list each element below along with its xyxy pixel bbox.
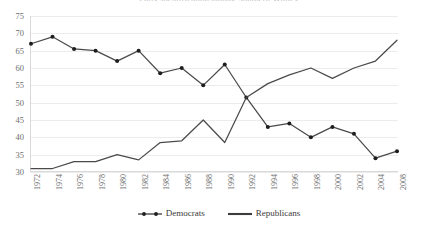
y-axis-tick-labels: 75706560555045403530 [0, 16, 28, 172]
series-layer [30, 16, 398, 172]
y-axis-tick-label: 75 [16, 11, 25, 21]
x-axis-tick-label: 2002 [357, 174, 365, 190]
data-point-democrats [373, 156, 377, 160]
series-line-democrats [31, 37, 397, 158]
data-point-democrats [266, 125, 270, 129]
x-axis-tick-label: 1984 [163, 174, 171, 190]
y-axis-tick-label: 70 [16, 28, 25, 38]
x-axis-tick-label: 1980 [120, 174, 128, 190]
chart-title: Party Identification among Southern Whit… [0, 0, 437, 1]
x-axis-tick-label: 1976 [77, 174, 85, 190]
y-axis-tick-label: 65 [16, 46, 25, 56]
y-axis-tick-label: 50 [16, 98, 25, 108]
x-axis-tick-label: 2004 [378, 174, 386, 190]
x-axis-tick-label: 2008 [400, 174, 408, 190]
gridline [30, 172, 398, 173]
x-axis-tick-label: 1972 [34, 174, 42, 190]
y-axis-tick-label: 40 [16, 132, 25, 142]
legend-label-republicans: Republicans [256, 209, 301, 218]
legend-swatch-republicans [227, 210, 253, 218]
x-axis-tick-labels: 1972197419761978198019821984198619881990… [30, 174, 398, 204]
y-axis-tick-label: 60 [16, 63, 25, 73]
legend-swatch-democrats [137, 210, 163, 218]
data-point-democrats [72, 47, 76, 51]
legend-item-republicans[interactable]: Republicans [227, 209, 301, 218]
data-point-democrats [29, 42, 33, 46]
x-axis-tick-label: 1990 [228, 174, 236, 190]
x-axis-tick-label: 1978 [99, 174, 107, 190]
y-axis-tick-label: 35 [16, 150, 25, 160]
y-axis-tick-label: 30 [16, 167, 25, 177]
data-point-democrats [330, 125, 334, 129]
data-point-democrats [352, 132, 356, 136]
x-axis-tick-label: 1986 [185, 174, 193, 190]
data-point-democrats [158, 71, 162, 75]
x-axis-tick-label: 1988 [206, 174, 214, 190]
x-axis-tick-label: 1996 [292, 174, 300, 190]
x-axis-tick-label: 1992 [249, 174, 257, 190]
data-point-democrats [395, 149, 399, 153]
data-point-democrats [201, 83, 205, 87]
x-axis-tick-label: 1994 [271, 174, 279, 190]
series-line-republicans [31, 40, 397, 168]
y-axis-tick-label: 55 [16, 80, 25, 90]
legend-label-democrats: Democrats [166, 209, 205, 218]
chart-figure: Party Identification among Southern Whit… [0, 0, 437, 232]
x-axis-tick-label: 1982 [142, 174, 150, 190]
data-point-democrats [51, 35, 55, 39]
data-point-democrats [137, 49, 141, 53]
chart-legend: Democrats Republicans [0, 209, 437, 218]
data-point-democrats [287, 121, 291, 125]
data-point-democrats [180, 66, 184, 70]
x-axis-tick-label: 2000 [335, 174, 343, 190]
data-point-democrats [223, 63, 227, 67]
x-axis-tick-label: 1998 [314, 174, 322, 190]
data-point-democrats [94, 49, 98, 53]
legend-item-democrats[interactable]: Democrats [137, 209, 205, 218]
x-axis-tick-label: 1974 [56, 174, 64, 190]
data-point-democrats [309, 135, 313, 139]
plot-area [30, 16, 398, 172]
data-point-democrats [115, 59, 119, 63]
y-axis-tick-label: 45 [16, 115, 25, 125]
